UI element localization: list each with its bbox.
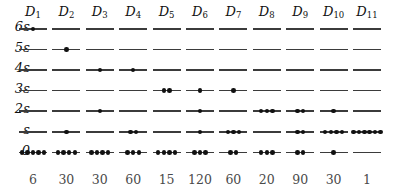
row-label-2: 2ε bbox=[15, 102, 30, 115]
energy-level-line bbox=[286, 69, 314, 71]
energy-level-line bbox=[153, 69, 181, 71]
particle-dot bbox=[231, 130, 236, 135]
energy-level-line bbox=[353, 69, 381, 71]
row-label-5: 5ε bbox=[15, 41, 30, 54]
particle-dot bbox=[331, 109, 336, 114]
particle-dot bbox=[67, 150, 72, 155]
multiplicity-value-d11: 1 bbox=[350, 172, 383, 187]
energy-level-line bbox=[253, 49, 281, 51]
particle-dot bbox=[198, 150, 203, 155]
particle-dot bbox=[98, 68, 103, 73]
particle-dot bbox=[259, 109, 264, 114]
particle-dot bbox=[334, 130, 339, 135]
multiplicity-value-d2: 30 bbox=[50, 172, 83, 187]
energy-level-line bbox=[320, 28, 348, 30]
column-header-base: D bbox=[323, 4, 333, 19]
particle-dot bbox=[167, 150, 172, 155]
particle-dot bbox=[36, 150, 41, 155]
energy-level-line bbox=[153, 131, 181, 133]
column-header-base: D bbox=[259, 4, 269, 19]
column-header-base: D bbox=[25, 4, 35, 19]
energy-level-line bbox=[253, 28, 281, 30]
particle-dot bbox=[362, 130, 367, 135]
particle-dot bbox=[173, 150, 178, 155]
particle-dot bbox=[167, 88, 172, 93]
energy-level-line bbox=[253, 69, 281, 71]
particle-dot bbox=[131, 150, 136, 155]
particle-dot bbox=[301, 109, 306, 114]
multiplicity-value-d3: 30 bbox=[83, 172, 116, 187]
energy-level-line bbox=[52, 110, 80, 112]
column-header-index: 3 bbox=[102, 10, 107, 20]
particle-dot bbox=[237, 130, 242, 135]
energy-level-line bbox=[353, 49, 381, 51]
multiplicity-value-d10: 30 bbox=[317, 172, 350, 187]
particle-dot bbox=[61, 150, 66, 155]
multiplicity-value-d8: 20 bbox=[250, 172, 283, 187]
particle-dot bbox=[331, 150, 336, 155]
particle-dot bbox=[162, 88, 167, 93]
energy-level-line bbox=[353, 152, 381, 154]
particle-dot bbox=[378, 130, 383, 135]
particle-dot bbox=[162, 150, 167, 155]
energy-level-line bbox=[320, 90, 348, 92]
column-header-index: 5 bbox=[169, 10, 174, 20]
energy-level-line bbox=[86, 28, 114, 30]
column-header-base: D bbox=[125, 4, 135, 19]
energy-level-line bbox=[186, 49, 214, 51]
particle-dot bbox=[295, 130, 300, 135]
particle-dot bbox=[89, 150, 94, 155]
energy-level-line bbox=[320, 69, 348, 71]
column-header-index: 1 bbox=[36, 10, 41, 20]
energy-level-line bbox=[19, 69, 47, 71]
column-header-index: 9 bbox=[303, 10, 308, 20]
particle-dot bbox=[231, 88, 236, 93]
energy-level-line bbox=[286, 90, 314, 92]
energy-level-line bbox=[119, 49, 147, 51]
column-header-index: 6 bbox=[203, 10, 208, 20]
particle-dot bbox=[270, 150, 275, 155]
column-header-base: D bbox=[292, 4, 302, 19]
row-label-6: 6ε bbox=[15, 20, 30, 33]
particle-dot bbox=[192, 150, 197, 155]
particle-dot bbox=[131, 68, 136, 73]
particle-dot bbox=[234, 150, 239, 155]
particle-dot bbox=[329, 130, 334, 135]
multiplicity-value-d4: 60 bbox=[117, 172, 150, 187]
column-header-base: D bbox=[58, 4, 68, 19]
particle-dot bbox=[357, 130, 362, 135]
energy-level-line bbox=[19, 90, 47, 92]
energy-level-line bbox=[86, 90, 114, 92]
particle-dot bbox=[295, 109, 300, 114]
energy-level-line bbox=[253, 131, 281, 133]
particle-dot bbox=[100, 150, 105, 155]
column-header-base: D bbox=[225, 4, 235, 19]
particle-dot bbox=[42, 150, 47, 155]
energy-level-line bbox=[19, 49, 47, 51]
particle-dot bbox=[128, 130, 133, 135]
energy-level-line bbox=[19, 131, 47, 133]
energy-level-line bbox=[286, 28, 314, 30]
particle-dot bbox=[56, 150, 61, 155]
row-label-3: 3ε bbox=[15, 82, 30, 95]
column-header-d11: D11 bbox=[346, 4, 388, 19]
particle-dot bbox=[265, 150, 270, 155]
multiplicity-value-d1: 6 bbox=[16, 172, 49, 187]
particle-dot bbox=[25, 150, 30, 155]
energy-level-line bbox=[219, 69, 247, 71]
energy-level-line bbox=[219, 28, 247, 30]
energy-level-line bbox=[119, 110, 147, 112]
energy-level-line bbox=[52, 90, 80, 92]
row-label-4: 4ε bbox=[15, 61, 30, 74]
multiplicity-value-d6: 120 bbox=[183, 172, 216, 187]
row-label-1: ε bbox=[23, 123, 30, 136]
column-header-base: D bbox=[356, 4, 366, 19]
energy-level-line bbox=[353, 28, 381, 30]
particle-dot bbox=[125, 150, 130, 155]
particle-dot bbox=[31, 150, 36, 155]
column-header-index: 4 bbox=[136, 10, 141, 20]
energy-level-line bbox=[320, 49, 348, 51]
energy-level-line bbox=[286, 49, 314, 51]
energy-level-line bbox=[186, 69, 214, 71]
multiplicity-value-d5: 15 bbox=[150, 172, 183, 187]
